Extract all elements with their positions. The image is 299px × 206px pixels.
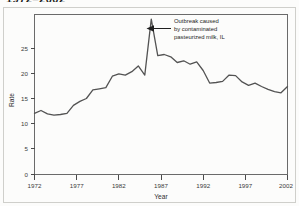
y-tick-label-15: 15 (21, 95, 28, 102)
x-tick-label-2002: 2002 (279, 182, 293, 189)
series-line-rate (35, 19, 288, 115)
y-tick-label-25: 25 (21, 45, 28, 52)
y-tick-label-5: 5 (25, 145, 29, 152)
x-tick-label-1997: 1997 (238, 182, 252, 189)
x-axis-title: Year (154, 193, 168, 200)
y-tick-label-10: 10 (21, 120, 28, 127)
x-tick-label-1977: 1977 (70, 182, 84, 189)
chart-canvas: 25 20 15 10 5 0 1972 1977 198 (0, 0, 299, 206)
plot-frame (35, 15, 288, 175)
y-axis-title: Rate (8, 93, 15, 107)
annotation-line-1: Outbreak caused (174, 18, 219, 24)
x-tick-label-1987: 1987 (154, 182, 168, 189)
line-chart-svg: 25 20 15 10 5 0 1972 1977 198 (0, 0, 299, 206)
x-axis-tick-labels: 1972 1977 1982 1987 1992 1997 2002 (28, 182, 294, 189)
annotation-text-block: Outbreak caused by contaminated pasteuri… (174, 18, 225, 40)
x-axis-ticks (35, 175, 288, 180)
x-tick-label-1982: 1982 (112, 182, 126, 189)
plot-border (35, 15, 288, 175)
x-tick-label-1992: 1992 (196, 182, 210, 189)
annotation-line-2: by contaminated (174, 26, 217, 32)
figure-page: 1972–2002 25 20 15 10 5 (0, 0, 299, 206)
y-tick-label-0: 0 (25, 171, 29, 178)
y-axis-tick-labels: 25 20 15 10 5 0 (21, 45, 28, 178)
x-tick-label-1972: 1972 (28, 182, 42, 189)
y-tick-label-20: 20 (21, 70, 28, 77)
y-axis-ticks (31, 49, 35, 175)
annotation-line-3: pasteurized milk, IL (174, 34, 225, 40)
